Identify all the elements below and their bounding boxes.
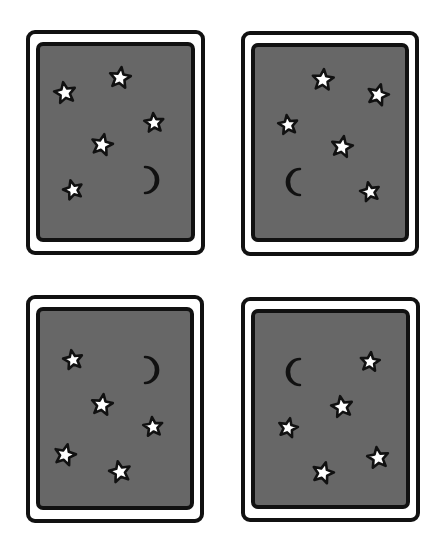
card: Card 3: five stars and a crescent moon (… <box>28 297 202 521</box>
night-sky-cards-scene: Card 1: five stars and a crescent moon (… <box>0 0 442 558</box>
card: Card 1: five stars and a crescent moon (… <box>28 32 203 253</box>
night-sky-panel <box>253 45 407 240</box>
card: Card 4: five stars and a crescent moon (… <box>243 299 418 520</box>
card: Card 2: five stars and a crescent moon (… <box>243 33 417 254</box>
cards-layer: Card 1: five stars and a crescent moon (… <box>28 32 418 521</box>
night-sky-panel <box>253 311 408 507</box>
